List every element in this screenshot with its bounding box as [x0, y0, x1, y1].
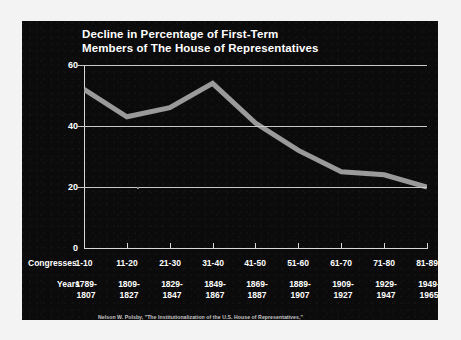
x-category-label-3: 21-30 — [159, 258, 181, 268]
x-year-start-9: 1949- — [418, 279, 438, 290]
chart-title: Decline in Percentage of First-Term Memb… — [82, 27, 412, 55]
x-category-label-6: 51-60 — [287, 258, 309, 268]
y-tick-label-20: 20 — [54, 182, 78, 192]
x-category-label-2: 11-20 — [116, 258, 137, 268]
y-tick-label-60: 60 — [54, 60, 78, 70]
y-tick-label-40: 40 — [54, 121, 78, 131]
x-category-label-9: 81-89 — [416, 258, 438, 268]
chart-figure: Decline in Percentage of First-Term Memb… — [0, 0, 461, 340]
x-year-label-2: 1809- 1827 — [118, 279, 140, 301]
x-year-end-9: 1965 — [418, 290, 438, 301]
x-year-end-6: 1907 — [289, 290, 311, 301]
x-year-label-5: 1869- 1887 — [246, 279, 268, 301]
y-tick-mark-40 — [77, 126, 84, 127]
x-year-end-2: 1827 — [118, 290, 140, 301]
y-tick-mark-20 — [77, 187, 84, 188]
chart-title-line-2: Members of The House of Representatives — [82, 41, 412, 55]
source-citation: Nelson W. Polsby, "The Institutionalizat… — [98, 314, 398, 320]
y-tick-label-0: 0 — [54, 243, 78, 253]
chart-title-line-1: Decline in Percentage of First-Term — [82, 27, 412, 41]
x-category-label-4: 31-40 — [202, 258, 224, 268]
x-year-end-5: 1887 — [246, 290, 268, 301]
x-year-label-1: 1789- 1807 — [75, 279, 97, 301]
x-year-end-4: 1867 — [204, 290, 226, 301]
x-year-label-7: 1909- 1927 — [332, 279, 354, 301]
x-category-label-8: 71-80 — [373, 258, 395, 268]
x-year-label-6: 1889- 1907 — [289, 279, 311, 301]
x-year-start-4: 1849- — [204, 279, 226, 290]
source-citation-line-1: Nelson W. Polsby, "The Institutionalizat… — [98, 314, 398, 320]
x-year-start-3: 1829- — [161, 279, 183, 290]
x-year-end-3: 1847 — [161, 290, 183, 301]
chart-panel: Decline in Percentage of First-Term Memb… — [22, 21, 438, 320]
x-year-start-2: 1809- — [118, 279, 140, 290]
x-year-start-8: 1929- — [375, 279, 397, 290]
x-axis-line — [84, 248, 428, 249]
x-year-start-1: 1789- — [75, 279, 97, 290]
data-series-line — [84, 65, 427, 248]
x-year-label-9: 1949- 1965 — [418, 279, 438, 301]
gridline-60 — [84, 65, 427, 66]
x-year-label-4: 1849- 1867 — [204, 279, 226, 301]
congresses-caption: Congresses — [28, 258, 77, 268]
x-year-start-6: 1889- — [289, 279, 311, 290]
image-speck-artifact — [137, 187, 139, 189]
gridline-20 — [84, 187, 427, 188]
y-tick-mark-60 — [77, 65, 84, 66]
x-category-label-7: 61-70 — [330, 258, 352, 268]
x-year-label-8: 1929- 1947 — [375, 279, 397, 301]
x-year-end-8: 1947 — [375, 290, 397, 301]
x-tick-mark-9 — [427, 243, 428, 249]
x-year-start-7: 1909- — [332, 279, 354, 290]
x-year-end-1: 1807 — [75, 290, 97, 301]
x-category-label-5: 41-50 — [244, 258, 266, 268]
plot-area — [84, 65, 427, 248]
x-year-end-7: 1927 — [332, 290, 354, 301]
x-year-start-5: 1869- — [246, 279, 268, 290]
x-year-label-3: 1829- 1847 — [161, 279, 183, 301]
gridline-40 — [84, 126, 427, 127]
x-category-label-1: 1-10 — [75, 258, 92, 268]
